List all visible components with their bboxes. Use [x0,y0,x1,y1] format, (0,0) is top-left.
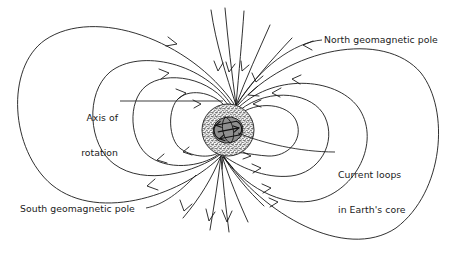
arrowhead-left-3-top [159,69,169,79]
arrowhead-north-1 [214,61,223,71]
left-field-loops [18,27,234,203]
arrowhead-left-outer-bottom [147,179,158,190]
magnetic-field-diagram: North geomagnetic pole Axis of rotation … [0,0,457,266]
north-line-2 [225,8,236,105]
arrowhead-left-outer-top [166,37,177,46]
arrowhead-right-outer-bottom [269,198,278,207]
arrowhead-left-2-top [176,89,186,99]
label-axis-of-rotation-line2: rotation [60,147,118,159]
arrowhead-north-3 [241,61,249,71]
label-axis-of-rotation: Axis of rotation [60,89,118,181]
label-axis-of-rotation-line1: Axis of [60,112,118,124]
right-loop-outer [224,49,439,239]
earth-group [202,104,254,156]
arrowhead-right-2-bottom [252,164,261,173]
south-line-4 [222,156,248,222]
south-line-2 [210,156,221,230]
arrowhead-south-2 [206,209,215,221]
label-south-geomagnetic-pole: South geomagnetic pole [20,203,135,215]
label-north-geomagnetic-pole: North geomagnetic pole [324,34,438,46]
label-current-loops-line2: in Earth's core [338,204,406,216]
label-current-loops-in-earths-core: Current loops in Earth's core [338,146,406,238]
north-line-3 [236,11,244,105]
label-current-loops-line1: Current loops [338,169,406,181]
right-field-loops [224,49,439,239]
arrowhead-right-3-top [292,75,301,84]
left-loop-outer [18,27,234,203]
